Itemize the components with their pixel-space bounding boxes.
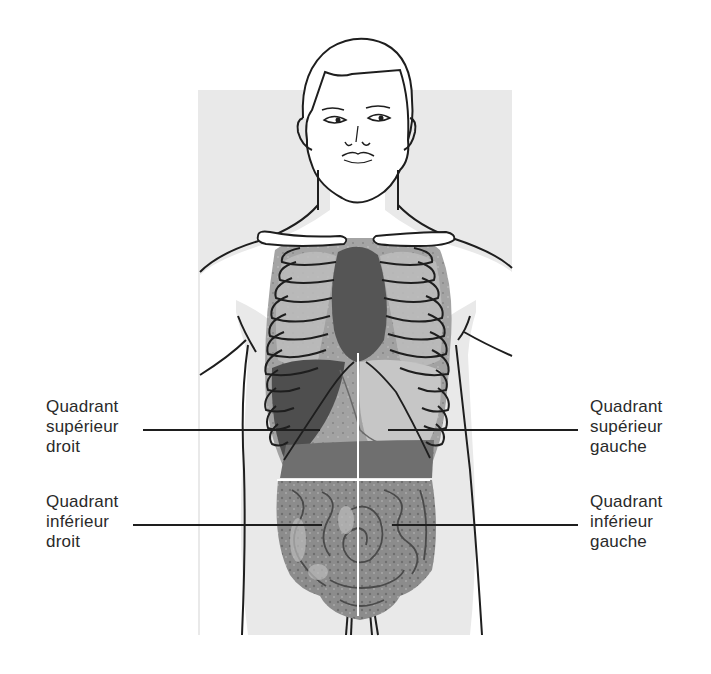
label-line: Quadrant — [46, 397, 119, 417]
label-left-upper-quadrant: Quadrant supérieur gauche — [590, 397, 663, 457]
label-line: inférieur — [46, 512, 118, 532]
label-line: gauche — [590, 532, 662, 552]
label-line: droit — [46, 437, 119, 457]
label-right-upper-quadrant: Quadrant supérieur droit — [46, 397, 119, 457]
internal-organs — [258, 232, 455, 621]
anatomy-figure — [0, 0, 711, 674]
label-line: supérieur — [590, 417, 663, 437]
label-line: Quadrant — [590, 397, 663, 417]
label-line: supérieur — [46, 417, 119, 437]
label-line: gauche — [590, 437, 663, 457]
label-left-lower-quadrant: Quadrant inférieur gauche — [590, 492, 662, 552]
label-line: Quadrant — [590, 492, 662, 512]
label-line: Quadrant — [46, 492, 118, 512]
label-line: droit — [46, 532, 118, 552]
label-right-lower-quadrant: Quadrant inférieur droit — [46, 492, 118, 552]
label-line: inférieur — [590, 512, 662, 532]
